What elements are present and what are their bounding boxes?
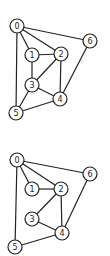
edge-0-5 (16, 26, 17, 113)
node-6: 6 (83, 167, 97, 181)
node-5: 5 (8, 240, 22, 254)
node-label: 2 (58, 185, 63, 194)
node-1: 1 (25, 182, 39, 196)
node-3: 3 (25, 212, 39, 226)
node-5: 5 (9, 106, 23, 120)
node-label: 3 (29, 215, 34, 224)
node-label: 3 (29, 81, 34, 90)
node-2: 2 (54, 47, 68, 61)
node-0: 0 (10, 153, 24, 167)
node-label: 6 (87, 170, 92, 179)
node-label: 0 (14, 156, 19, 165)
node-3: 3 (25, 78, 39, 92)
node-label: 4 (57, 95, 62, 104)
node-4: 4 (55, 226, 69, 240)
node-6: 6 (83, 34, 97, 48)
node-label: 6 (87, 37, 92, 46)
node-0: 0 (10, 19, 24, 33)
node-2: 2 (54, 182, 68, 196)
node-label: 5 (12, 243, 17, 252)
edge-0-5 (15, 160, 17, 247)
node-label: 1 (29, 51, 34, 60)
node-label: 0 (14, 22, 19, 31)
node-label: 1 (29, 185, 34, 194)
edge-6-4 (62, 174, 90, 233)
graph-top: 0123456 (9, 19, 97, 120)
node-label: 4 (59, 229, 64, 238)
node-label: 2 (58, 50, 63, 59)
node-4: 4 (53, 92, 67, 106)
graph-bottom: 0123456 (8, 153, 97, 254)
node-label: 5 (13, 109, 18, 118)
node-1: 1 (25, 48, 39, 62)
graph-canvas: 01234560123456 (0, 0, 110, 256)
